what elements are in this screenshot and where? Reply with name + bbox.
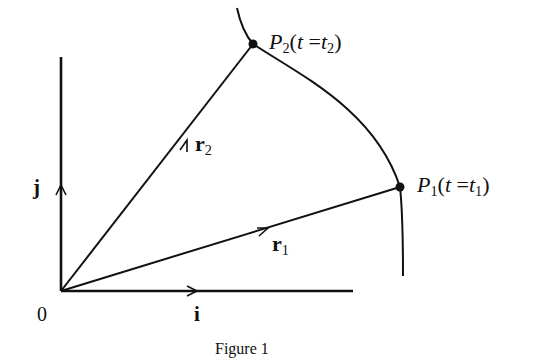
j-unit-label: j — [33, 177, 40, 198]
i-unit-label: i — [194, 304, 200, 325]
r2-name: r — [195, 131, 205, 156]
r2-arrow-icon — [180, 140, 187, 152]
r2-sub: 2 — [205, 142, 212, 158]
figure-caption: Figure 1 — [215, 341, 269, 357]
point-p2 — [249, 40, 258, 49]
r1-sub: 1 — [282, 242, 289, 258]
vector-r1 — [61, 187, 400, 291]
point-p1-label: P1(t =t1) — [417, 174, 490, 198]
point-p1 — [396, 183, 405, 192]
p2-name: P — [269, 29, 282, 54]
p2-eq: = — [303, 29, 321, 54]
vector-r1-label: r1 — [272, 233, 289, 257]
p2-value-sub: 2 — [327, 40, 334, 56]
vector-r2-label: r2 — [195, 133, 212, 157]
origin-label: 0 — [37, 304, 47, 324]
p2-sub: 2 — [282, 40, 289, 56]
p1-sub: 1 — [430, 183, 437, 199]
vector-r2 — [61, 44, 253, 291]
r1-name: r — [272, 231, 282, 256]
point-p2-label: P2(t =t2) — [269, 31, 342, 55]
p1-eq: = — [451, 172, 469, 197]
p1-name: P — [417, 172, 430, 197]
p1-value-sub: 1 — [475, 183, 482, 199]
